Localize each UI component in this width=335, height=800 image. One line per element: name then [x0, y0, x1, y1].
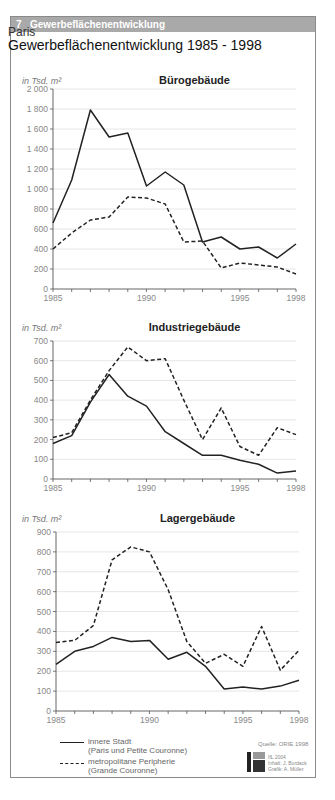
y-tick-label: 200	[34, 435, 48, 445]
x-tick-label: 1998	[290, 715, 309, 725]
legend-solid-line-icon	[60, 742, 84, 743]
unit-label: in Tsd. m²	[22, 323, 62, 333]
x-tick-label: 1985	[47, 715, 66, 725]
chart-title: Lagergebäude	[160, 512, 235, 524]
chart-title: Bürogebäude	[159, 74, 230, 86]
x-tick-label: 1985	[44, 293, 63, 303]
y-tick-label: 800	[37, 547, 51, 557]
y-tick-label: 1 600	[27, 124, 49, 134]
ifl-logo-icon	[247, 752, 265, 772]
y-tick-label: 400	[34, 395, 48, 405]
y-tick-label: 800	[34, 204, 48, 214]
series-innere-stadt-line	[53, 110, 296, 258]
x-tick-label: 1990	[140, 715, 159, 725]
chart-bürogebäude: in Tsd. m²Bürogebäude02004006008001 0001…	[22, 74, 306, 303]
y-tick-label: 300	[37, 646, 51, 656]
series-innere-stadt-line	[56, 637, 299, 689]
x-tick-label: 1990	[137, 483, 156, 493]
y-tick-label: 400	[34, 244, 48, 254]
y-tick-label: 600	[34, 356, 48, 366]
legend-dashed-label: metropolitane Peripherie	[88, 757, 175, 766]
y-tick-label: 200	[37, 666, 51, 676]
legend-dashed-sublabel: (Grande Couronne)	[88, 766, 175, 775]
y-tick-label: 500	[37, 607, 51, 617]
x-tick-label: 1995	[230, 293, 249, 303]
legend-dashed-line-icon	[60, 763, 84, 764]
legend-solid: innere Stadt (Paris und Petite Couronne)	[88, 737, 187, 755]
y-tick-label: 600	[37, 587, 51, 597]
x-tick-label: 1998	[287, 293, 306, 303]
chart-industriegebäude: in Tsd. m²Industriegebäude01002003004005…	[22, 321, 306, 493]
y-tick-label: 400	[37, 626, 51, 636]
credits: IfL 2004 Inhalt: J. Burdack Grafik: A. M…	[268, 754, 307, 772]
source-note: Quelle: ORIE 1998	[258, 741, 308, 747]
y-tick-label: 500	[34, 375, 48, 385]
legend-dashed: metropolitane Peripherie (Grande Couronn…	[88, 757, 175, 775]
chart-title: Industriegebäude	[149, 321, 241, 333]
y-tick-label: 1 800	[27, 104, 49, 114]
x-tick-label: 1995	[233, 715, 252, 725]
y-tick-label: 1 400	[27, 144, 49, 154]
x-tick-label: 1990	[137, 293, 156, 303]
unit-label: in Tsd. m²	[22, 514, 62, 524]
y-tick-label: 300	[34, 415, 48, 425]
y-tick-label: 100	[34, 454, 48, 464]
x-tick-label: 1998	[287, 483, 306, 493]
y-tick-label: 900	[37, 527, 51, 537]
y-tick-label: 700	[37, 567, 51, 577]
y-tick-label: 1 200	[27, 164, 49, 174]
y-tick-label: 1 000	[27, 184, 49, 194]
series-peripherie-line	[53, 347, 296, 455]
y-tick-label: 200	[34, 264, 48, 274]
y-tick-label: 100	[37, 686, 51, 696]
chart-lagergebäude: in Tsd. m²Lagergebäude010020030040050060…	[22, 512, 309, 725]
x-tick-label: 1985	[44, 483, 63, 493]
x-tick-label: 1995	[230, 483, 249, 493]
y-tick-label: 2 000	[27, 84, 49, 94]
charts-canvas: in Tsd. m²Bürogebäude02004006008001 0001…	[0, 0, 335, 800]
legend-solid-sublabel: (Paris und Petite Couronne)	[88, 746, 187, 755]
y-tick-label: 600	[34, 224, 48, 234]
y-tick-label: 700	[34, 336, 48, 346]
credit-graphics: Grafik: A. Müller	[268, 766, 307, 772]
legend-solid-label: innere Stadt	[88, 737, 187, 746]
series-innere-stadt-line	[53, 375, 296, 474]
